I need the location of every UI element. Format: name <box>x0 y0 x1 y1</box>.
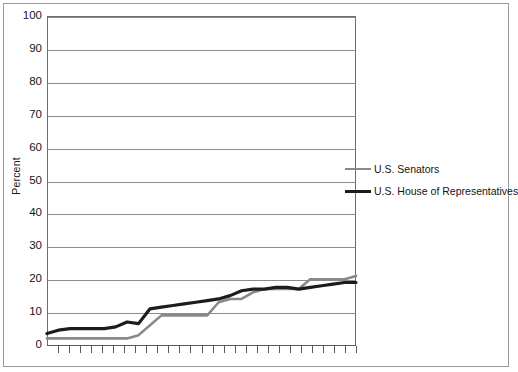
x-tick-mark <box>279 346 280 353</box>
y-tick-label: 0 <box>8 339 42 351</box>
y-tick-label: 100 <box>8 10 42 22</box>
x-tick-mark <box>323 346 324 353</box>
x-tick-mark <box>213 346 214 353</box>
y-axis-title: Percent <box>10 146 22 206</box>
x-tick-mark <box>168 346 169 353</box>
gridline <box>48 182 355 183</box>
y-tick-label: 90 <box>8 43 42 55</box>
x-tick-mark <box>268 346 269 353</box>
gridline <box>48 50 355 51</box>
y-tick-label: 20 <box>8 273 42 285</box>
x-tick-mark <box>91 346 92 353</box>
gridline <box>48 280 355 281</box>
x-tick-mark <box>246 346 247 353</box>
gridline <box>48 116 355 117</box>
x-tick-mark <box>312 346 313 353</box>
legend-swatch-house-icon <box>345 190 371 193</box>
x-tick-mark <box>290 346 291 353</box>
y-tick-label: 10 <box>8 306 42 318</box>
x-tick-mark <box>179 346 180 353</box>
plot-area <box>47 16 356 345</box>
x-tick-mark <box>334 346 335 353</box>
x-tick-mark <box>58 346 59 353</box>
x-tick-mark <box>345 346 346 353</box>
chart-legend: U.S. Senators U.S. House of Representati… <box>345 158 513 202</box>
y-tick-label: 80 <box>8 76 42 88</box>
x-tick-mark <box>80 346 81 353</box>
x-tick-mark <box>69 346 70 353</box>
x-tick-mark <box>235 346 236 353</box>
x-tick-mark <box>102 346 103 353</box>
x-tick-mark <box>146 346 147 353</box>
legend-label-senators: U.S. Senators <box>374 163 439 175</box>
y-tick-label: 30 <box>8 240 42 252</box>
gridline <box>48 247 355 248</box>
x-tick-mark <box>157 346 158 353</box>
gridline <box>48 149 355 150</box>
x-tick-mark <box>135 346 136 353</box>
legend-label-house: U.S. House of Representatives <box>374 185 518 197</box>
gridline <box>48 214 355 215</box>
x-tick-mark <box>301 346 302 353</box>
gridline <box>48 83 355 84</box>
x-tick-mark <box>190 346 191 353</box>
x-tick-mark <box>113 346 114 353</box>
x-tick-mark <box>224 346 225 353</box>
x-tick-mark <box>124 346 125 353</box>
y-tick-label: 70 <box>8 109 42 121</box>
gridline <box>48 313 355 314</box>
legend-item-senators: U.S. Senators <box>345 158 513 180</box>
x-tick-mark <box>356 346 357 353</box>
legend-swatch-senators-icon <box>345 168 371 170</box>
legend-item-house: U.S. House of Representatives <box>345 180 513 202</box>
gridline <box>48 17 355 18</box>
y-tick-label: 40 <box>8 207 42 219</box>
x-tick-mark <box>202 346 203 353</box>
x-tick-mark <box>257 346 258 353</box>
